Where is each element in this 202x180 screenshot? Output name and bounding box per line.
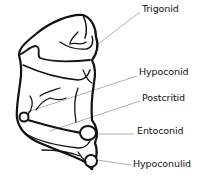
molar-illustration — [0, 0, 202, 180]
label-entoconid: Entoconid — [137, 125, 183, 136]
label-hypoconid: Hypoconid — [139, 66, 188, 77]
leader-hypoconulid — [97, 160, 131, 165]
leader-lines — [24, 12, 140, 165]
leader-trigonid — [98, 12, 140, 44]
label-trigonid: Trigonid — [142, 3, 179, 14]
label-postcritid: Postcritid — [142, 92, 185, 103]
label-hypoconulid: Hypoconulid — [133, 158, 191, 169]
tooth-diagram: Trigonid Hypoconid Postcritid Entoconid … — [0, 0, 202, 180]
tooth-outline — [17, 15, 98, 169]
